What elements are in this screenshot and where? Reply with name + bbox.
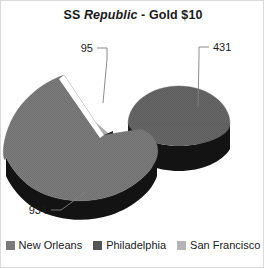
pie-slice-new-orleans[interactable] — [3, 75, 158, 220]
chart-legend: New Orleans Philadelphia San Francisco — [1, 239, 264, 251]
legend-label-philadelphia: Philadelphia — [106, 239, 166, 251]
chart-title: SS Republic - Gold $10 — [1, 8, 264, 22]
legend-item-philadelphia[interactable]: Philadelphia — [93, 239, 166, 251]
plot-area: 431 95 934 — [1, 29, 264, 234]
data-label-san-francisco: 95 — [81, 42, 93, 54]
legend-swatch-icon-philadelphia — [93, 241, 102, 250]
legend-label-new-orleans: New Orleans — [19, 239, 83, 251]
legend-swatch-icon-san-francisco — [177, 241, 186, 250]
slice-top-philadelphia — [128, 86, 230, 124]
leader-line-san-francisco — [97, 48, 107, 103]
legend-label-san-francisco: San Francisco — [190, 239, 260, 251]
pie-svg: 431 95 934 — [1, 29, 264, 234]
chart-title-suffix: - Gold $10 — [138, 8, 203, 22]
data-label-new-orleans: 934 — [29, 204, 47, 216]
chart-title-italic: Republic — [84, 8, 138, 22]
pie-chart-figure: SS Republic - Gold $10 — [0, 0, 264, 268]
data-label-philadelphia: 431 — [213, 41, 231, 53]
legend-swatch-icon-new-orleans — [6, 241, 15, 250]
slice-top-new-orleans — [3, 75, 158, 201]
chart-title-prefix: SS — [63, 8, 83, 22]
legend-item-san-francisco[interactable]: San Francisco — [177, 239, 260, 251]
legend-item-new-orleans[interactable]: New Orleans — [6, 239, 83, 251]
